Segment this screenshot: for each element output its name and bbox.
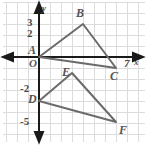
point-label-C: C <box>110 70 118 82</box>
point-label-A: A <box>28 44 36 56</box>
point-label-E: E <box>62 66 70 78</box>
point-label-B: B <box>76 7 84 19</box>
origin-label: O <box>29 58 37 69</box>
point-label-F: F <box>119 124 127 136</box>
coordinate-plane-figure: 3 2 -2 -5 7 x y O A B C D E F <box>0 0 148 145</box>
y-axis-label: y <box>42 4 46 13</box>
triangle-DEF <box>39 73 116 122</box>
x-axis-arrow-left <box>3 53 13 61</box>
y-axis-arrow-down <box>35 132 43 142</box>
y-tick-label-2: 2 <box>27 28 33 39</box>
y-tick-label-minus5: -5 <box>20 116 29 127</box>
x-tick-label-7: 7 <box>124 58 130 69</box>
point-label-D: D <box>28 93 37 105</box>
x-axis-label: x <box>134 58 139 67</box>
